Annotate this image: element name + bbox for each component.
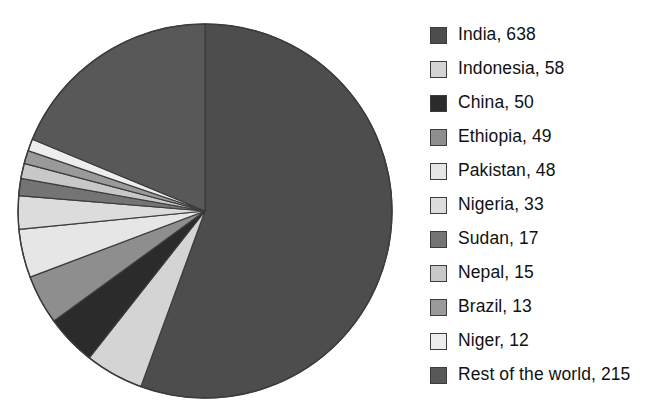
legend-color-swatch [430, 333, 447, 350]
legend-item: Nepal, 15 [430, 256, 672, 290]
legend-color-swatch [430, 27, 447, 44]
legend-color-swatch [430, 95, 447, 112]
legend-item-label: Rest of the world, 215 [458, 366, 630, 384]
legend-color-swatch [430, 163, 447, 180]
legend-item: India, 638 [430, 18, 672, 52]
legend-item: Pakistan, 48 [430, 154, 672, 188]
legend-item-label: Nepal, 15 [458, 264, 534, 282]
legend-item: China, 50 [430, 86, 672, 120]
pie-chart-plot-area [0, 0, 420, 415]
legend-item: Ethiopia, 49 [430, 120, 672, 154]
pie-chart-svg [0, 0, 420, 415]
legend-item: Brazil, 13 [430, 290, 672, 324]
legend-item: Indonesia, 58 [430, 52, 672, 86]
legend-item-label: India, 638 [458, 26, 536, 44]
legend-item: Sudan, 17 [430, 222, 672, 256]
legend-item-label: Ethiopia, 49 [458, 128, 552, 146]
chart-legend: India, 638Indonesia, 58China, 50Ethiopia… [430, 18, 672, 392]
legend-item-label: Indonesia, 58 [458, 60, 564, 78]
legend-color-swatch [430, 265, 447, 282]
legend-item-label: Pakistan, 48 [458, 162, 556, 180]
legend-item-label: Niger, 12 [458, 332, 529, 350]
pie-chart-figure: India, 638Indonesia, 58China, 50Ethiopia… [0, 0, 672, 415]
legend-item: Rest of the world, 215 [430, 358, 672, 392]
legend-color-swatch [430, 367, 447, 384]
legend-color-swatch [430, 299, 447, 316]
legend-item-label: Brazil, 13 [458, 298, 532, 316]
legend-color-swatch [430, 197, 447, 214]
legend-item: Niger, 12 [430, 324, 672, 358]
legend-color-swatch [430, 129, 447, 146]
legend-item-label: Sudan, 17 [458, 230, 539, 248]
legend-item-label: China, 50 [458, 94, 534, 112]
legend-color-swatch [430, 61, 447, 78]
legend-item: Nigeria, 33 [430, 188, 672, 222]
legend-color-swatch [430, 231, 447, 248]
legend-item-label: Nigeria, 33 [458, 196, 544, 214]
